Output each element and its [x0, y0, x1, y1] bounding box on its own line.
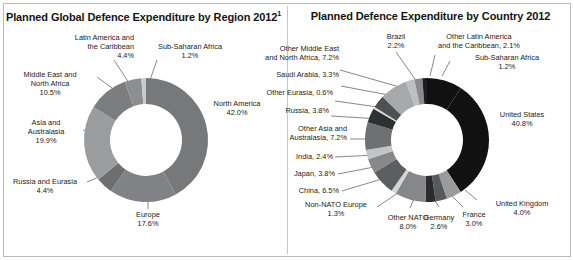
label-sub-saharan-value: 1.2%	[140, 51, 240, 60]
label-sub-saharan-africa: Sub-Saharan Africa 1.2%	[140, 42, 240, 60]
label-non-nato-line1: Non-NATO Europe	[293, 200, 379, 209]
label-other-asia-line1: Other Asia and	[239, 124, 347, 133]
label-india-line1: India, 2.4%	[247, 152, 333, 161]
label-asia-line1: Asia and	[8, 118, 84, 127]
label-russia-country: Russia, 3.8%	[239, 106, 329, 115]
label-saudi-arabia: Saudi Arabia, 3.3%	[247, 70, 339, 79]
defence-expenditure-figure: Planned Global Defence Expenditure by Re…	[0, 0, 574, 260]
label-brazil-line1: Brazil	[371, 32, 421, 41]
label-united-states: United States 40.8%	[483, 110, 561, 128]
label-japan: Japan, 3.8%	[247, 169, 335, 178]
label-other-mena-line1: Other Middle East	[247, 44, 339, 53]
label-usa-line1: United States	[483, 110, 561, 119]
label-usa-value: 40.8%	[483, 119, 561, 128]
label-non-nato-europe: Non-NATO Europe 1.3%	[293, 200, 379, 218]
label-india: India, 2.4%	[247, 152, 333, 161]
label-asia-australasia: Asia and Australasia 19.9%	[8, 118, 84, 146]
label-latin-america-value: 4.4%	[26, 51, 134, 60]
label-uk-line1: United Kingdom	[479, 199, 565, 208]
label-other-latin-line1: Other Latin America	[419, 32, 539, 41]
slice-united-states	[447, 88, 489, 192]
label-mena-value: 10.5%	[6, 88, 94, 97]
label-brazil-value: 2.2%	[371, 41, 421, 50]
label-brazil: Brazil 2.2%	[371, 32, 421, 50]
label-uk-value: 4.0%	[479, 208, 565, 217]
label-russia-country-line1: Russia, 3.8%	[239, 106, 329, 115]
label-middle-east-north-africa: Middle East and North Africa 10.5%	[6, 70, 94, 98]
label-saudi-line1: Saudi Arabia, 3.3%	[247, 70, 339, 79]
label-other-mena-line2: and North Africa, 7.2%	[247, 53, 339, 62]
label-russia-eurasia: Russia and Eurasia 4.4%	[2, 177, 88, 195]
label-other-middle-east: Other Middle East and North Africa, 7.2%	[247, 44, 339, 62]
label-latin-america-line1: Latin America and	[26, 33, 134, 42]
label-non-nato-value: 1.3%	[293, 209, 379, 218]
label-china: China, 6.5%	[251, 186, 339, 195]
label-mena-line2: North Africa	[6, 79, 94, 88]
label-mena-line1: Middle East and	[6, 70, 94, 79]
label-latin-america-line2: the Caribbean	[26, 42, 134, 51]
label-sub-saharan-line1: Sub-Saharan Africa	[140, 42, 240, 51]
label-sub-saharan-africa-country: Sub-Saharan Africa 1.2%	[451, 53, 563, 71]
label-other-eurasia: Other Eurasia, 0.6%	[241, 88, 333, 97]
label-france-value: 3.0%	[451, 219, 497, 228]
label-asia-line2: Australasia	[8, 127, 84, 136]
label-sub-saharan-country-value: 1.2%	[451, 62, 563, 71]
label-asia-value: 19.9%	[8, 136, 84, 145]
label-russia-value: 4.4%	[2, 186, 88, 195]
label-other-asia-line2: Australasia, 7.2%	[239, 133, 347, 142]
label-other-eurasia-line1: Other Eurasia, 0.6%	[241, 88, 333, 97]
label-europe: Europe 17.6%	[116, 210, 180, 228]
label-japan-line1: Japan, 3.8%	[247, 169, 335, 178]
label-russia-line1: Russia and Eurasia	[2, 177, 88, 186]
label-other-latin-line2: and the Caribbean, 2.1%	[419, 41, 539, 50]
label-latin-america-caribbean: Latin America and the Caribbean 4.4%	[26, 33, 134, 61]
label-united-kingdom: United Kingdom 4.0%	[479, 199, 565, 217]
label-china-line1: China, 6.5%	[251, 186, 339, 195]
label-other-asia: Other Asia and Australasia, 7.2%	[239, 124, 347, 142]
panel-country-chart: Planned Defence Expenditure by Country 2…	[287, 0, 574, 260]
label-europe-value: 17.6%	[116, 219, 180, 228]
label-europe-line1: Europe	[116, 210, 180, 219]
label-other-latin-america: Other Latin America and the Caribbean, 2…	[419, 32, 539, 50]
label-sub-saharan-country-line1: Sub-Saharan Africa	[451, 53, 563, 62]
